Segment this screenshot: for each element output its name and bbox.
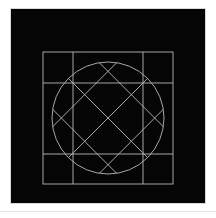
figure-panel — [11, 9, 205, 203]
diagonal-line — [11, 9, 181, 191]
bottom-separator-rule — [0, 211, 216, 212]
diagonal-line — [59, 69, 205, 203]
diagonal-line — [12, 22, 204, 203]
diagonal-line — [35, 9, 205, 191]
diagonal-line — [35, 45, 205, 203]
diagonal-line — [11, 9, 157, 167]
geometric-figure — [11, 9, 205, 203]
page-root — [0, 0, 216, 218]
diagonal-line — [11, 45, 181, 203]
diagonal-line — [12, 22, 204, 203]
diagonal-line — [59, 9, 205, 167]
diagonal-line — [11, 69, 157, 203]
